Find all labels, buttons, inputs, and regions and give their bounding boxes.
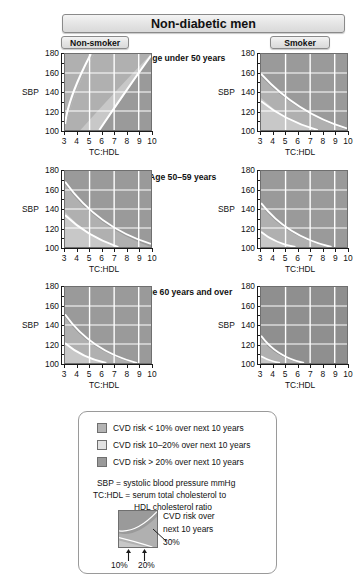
y-axis-title: SBP	[218, 87, 235, 97]
legend-item-high: CVD risk > 20% over next 10 years	[97, 457, 244, 467]
y-tick-label: 120	[45, 340, 59, 350]
x-tick-label: 5	[83, 369, 95, 379]
y-tick-label: 140	[45, 87, 59, 97]
risk-chart-page: Non-diabetic men Non-smoker Smoker Age u…	[0, 0, 353, 582]
x-tick	[298, 131, 299, 135]
y-tick-minor	[258, 180, 260, 181]
y-tick-label: 180	[45, 165, 59, 175]
x-tick	[273, 248, 274, 252]
y-tick	[61, 190, 65, 191]
y-tick-label: 160	[45, 185, 59, 195]
y-tick-minor	[62, 219, 64, 220]
chart-panel-age-50-59-non-smoker: 180160140120100SBP345678910TC:HDL	[20, 166, 158, 271]
x-tick	[127, 131, 128, 135]
x-tick-label: 6	[96, 369, 108, 379]
x-tick	[348, 131, 349, 135]
y-tick-label: 100	[45, 243, 59, 253]
y-tick-label: 160	[45, 301, 59, 311]
y-tick-minor	[62, 102, 64, 103]
x-tick-label: 4	[71, 136, 83, 146]
y-tick-minor	[62, 335, 64, 336]
x-tick-label: 5	[279, 136, 291, 146]
x-tick	[323, 131, 324, 135]
y-tick-label: 140	[241, 320, 255, 330]
x-tick-label: 5	[279, 369, 291, 379]
y-axis-title: SBP	[22, 87, 39, 97]
y-tick-minor	[62, 238, 64, 239]
x-axis-title: TC:HDL	[89, 147, 119, 157]
x-tick-label: 3	[58, 369, 70, 379]
x-tick	[335, 364, 336, 368]
y-tick	[257, 53, 261, 54]
x-tick-label: 10	[342, 136, 353, 146]
y-tick	[61, 229, 65, 230]
y-tick-minor	[258, 238, 260, 239]
definition-tchdl: TC:HDL = serum total cholesterol to	[93, 490, 226, 500]
page-title: Non-diabetic men	[62, 14, 345, 33]
y-tick	[257, 306, 261, 307]
x-tick	[77, 364, 78, 368]
plot-area	[260, 286, 348, 364]
y-tick-minor	[62, 180, 64, 181]
chart-panel-age-60-over-non-smoker: 180160140120100SBP345678910TC:HDL	[20, 282, 158, 387]
y-tick	[61, 170, 65, 171]
y-tick-label: 140	[241, 204, 255, 214]
x-tick	[64, 364, 65, 368]
y-tick-label: 160	[241, 301, 255, 311]
y-tick-minor	[258, 102, 260, 103]
y-tick-minor	[62, 63, 64, 64]
x-tick-label: 3	[254, 369, 266, 379]
y-tick-minor	[62, 121, 64, 122]
x-tick	[114, 364, 115, 368]
x-tick-label: 9	[329, 253, 341, 263]
x-tick-label: 7	[304, 369, 316, 379]
y-tick-label: 100	[45, 359, 59, 369]
y-tick-minor	[258, 63, 260, 64]
x-tick-label: 3	[254, 253, 266, 263]
y-tick-minor	[258, 354, 260, 355]
y-tick-label: 120	[45, 224, 59, 234]
x-tick	[310, 131, 311, 135]
plot-area	[64, 170, 152, 248]
y-tick-label: 180	[241, 48, 255, 58]
x-tick	[310, 248, 311, 252]
y-tick-label: 120	[241, 340, 255, 350]
x-tick	[348, 364, 349, 368]
x-tick-label: 9	[133, 136, 145, 146]
column-header-smoker: Smoker	[270, 36, 330, 49]
y-tick	[257, 170, 261, 171]
y-tick-label: 100	[241, 126, 255, 136]
mini-caption-line1: CVD risk over	[163, 511, 215, 521]
y-tick-label: 140	[45, 320, 59, 330]
x-tick-label: 4	[71, 253, 83, 263]
x-tick	[348, 248, 349, 252]
x-tick	[273, 364, 274, 368]
x-tick	[298, 364, 299, 368]
y-tick	[61, 209, 65, 210]
legend-item-mid: CVD risk 10–20% over next 10 years	[97, 440, 250, 450]
x-tick	[260, 364, 261, 368]
y-tick	[61, 345, 65, 346]
x-tick	[139, 131, 140, 135]
y-tick	[257, 190, 261, 191]
y-tick-label: 180	[45, 281, 59, 291]
y-tick-label: 100	[241, 243, 255, 253]
y-tick-minor	[62, 199, 64, 200]
x-tick-label: 8	[121, 253, 133, 263]
y-axis-title: SBP	[22, 320, 39, 330]
y-tick-label: 180	[45, 48, 59, 58]
legend-swatch-mid	[97, 440, 107, 450]
x-tick-label: 6	[292, 253, 304, 263]
y-tick	[61, 286, 65, 287]
y-tick	[257, 92, 261, 93]
y-tick-label: 180	[241, 165, 255, 175]
y-tick-label: 100	[241, 359, 255, 369]
x-tick-label: 4	[71, 369, 83, 379]
x-axis-title: TC:HDL	[285, 147, 315, 157]
x-tick-label: 5	[83, 253, 95, 263]
x-tick	[89, 131, 90, 135]
x-tick-label: 7	[304, 253, 316, 263]
legend-swatch-high	[97, 457, 107, 467]
legend-item-low: CVD risk < 10% over next 10 years	[97, 423, 244, 433]
y-tick-label: 100	[45, 126, 59, 136]
